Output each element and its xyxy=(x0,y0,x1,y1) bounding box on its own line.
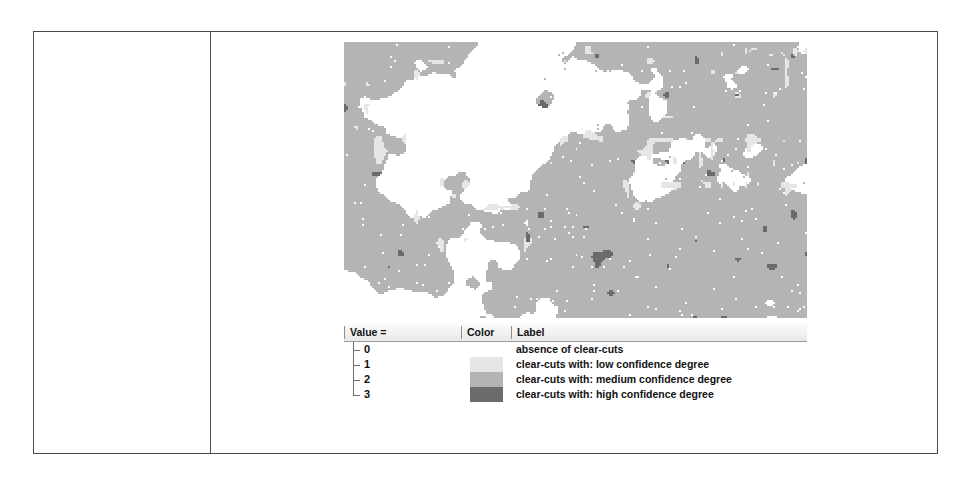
map-legend: Value = Color Label 0absence of clear-cu… xyxy=(344,324,807,402)
legend-color-swatch xyxy=(470,387,503,402)
figure-content-cell: Value = Color Label 0absence of clear-cu… xyxy=(211,32,937,453)
clear-cuts-raster-map xyxy=(344,42,807,318)
tree-branch-line xyxy=(353,350,360,351)
legend-value-cell: 0 xyxy=(344,342,461,357)
legend-color-cell xyxy=(461,372,511,387)
legend-header-color: Color xyxy=(461,326,511,339)
tree-branch-line xyxy=(353,380,360,381)
legend-value-text: 1 xyxy=(364,357,370,372)
legend-label-text: clear-cuts with: low confidence degree xyxy=(511,357,807,372)
legend-label-text: clear-cuts with: high confidence degree xyxy=(511,387,807,402)
legend-value-text: 0 xyxy=(364,342,370,357)
legend-color-cell xyxy=(461,357,511,372)
figure-caption-cell xyxy=(34,32,211,453)
legend-value-cell: 1 xyxy=(344,357,461,372)
tree-stem-line xyxy=(353,387,354,395)
legend-header-label: Label xyxy=(511,326,807,339)
legend-header-row: Value = Color Label xyxy=(344,324,807,342)
legend-value-text: 2 xyxy=(364,372,370,387)
legend-color-cell xyxy=(461,342,511,357)
legend-color-swatch xyxy=(470,342,503,357)
legend-color-cell xyxy=(461,387,511,402)
legend-row: 0absence of clear-cuts xyxy=(344,342,807,357)
legend-row: 2clear-cuts with: medium confidence degr… xyxy=(344,372,807,387)
legend-color-swatch xyxy=(470,357,503,372)
legend-value-cell: 3 xyxy=(344,387,461,402)
legend-value-text: 3 xyxy=(364,387,370,402)
tree-branch-line xyxy=(353,365,360,366)
clear-cuts-map-figure xyxy=(344,42,807,318)
legend-label-text: clear-cuts with: medium confidence degre… xyxy=(511,372,807,387)
legend-value-cell: 2 xyxy=(344,372,461,387)
legend-row: 1clear-cuts with: low confidence degree xyxy=(344,357,807,372)
legend-color-swatch xyxy=(470,372,503,387)
figure-table: Value = Color Label 0absence of clear-cu… xyxy=(33,31,938,454)
legend-row: 3clear-cuts with: high confidence degree xyxy=(344,387,807,402)
legend-rows: 0absence of clear-cuts1clear-cuts with: … xyxy=(344,342,807,402)
tree-branch-line xyxy=(353,395,360,396)
legend-label-text: absence of clear-cuts xyxy=(511,342,807,357)
legend-header-value: Value = xyxy=(344,326,461,339)
